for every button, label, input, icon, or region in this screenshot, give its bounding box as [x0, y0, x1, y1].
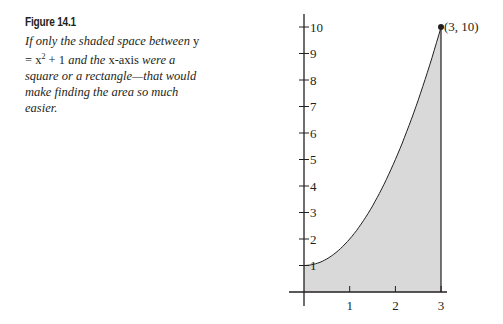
svg-text:4: 4	[310, 179, 317, 194]
svg-text:2: 2	[392, 298, 399, 313]
svg-text:1: 1	[310, 258, 317, 273]
shaded-area	[304, 27, 441, 292]
svg-text:1: 1	[346, 298, 353, 313]
svg-text:6: 6	[310, 126, 317, 141]
svg-text:3: 3	[438, 298, 445, 313]
endpoint-label: (3, 10)	[444, 19, 479, 34]
svg-text:10: 10	[310, 20, 323, 35]
svg-text:3: 3	[310, 205, 317, 220]
svg-text:7: 7	[310, 99, 317, 114]
svg-text:8: 8	[310, 73, 317, 88]
svg-text:9: 9	[310, 46, 317, 61]
chart: 12345678910 123 (3, 10)	[0, 0, 503, 324]
y-axis-ticks: 12345678910	[299, 20, 323, 274]
svg-text:5: 5	[310, 152, 317, 167]
svg-text:2: 2	[310, 232, 317, 247]
